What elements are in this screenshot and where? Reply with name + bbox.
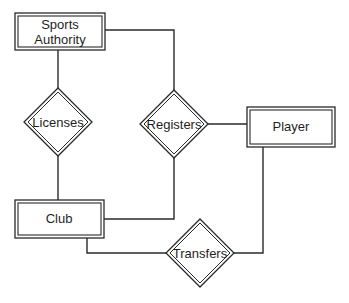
relationship-licenses[interactable]: Licenses	[24, 88, 92, 156]
entity-sports-authority-label-line2: Authority	[34, 32, 86, 47]
entity-sports-authority-label-line1: Sports	[41, 17, 79, 32]
relationship-registers-label: Registers	[147, 117, 202, 132]
entity-club-label: Club	[46, 211, 73, 226]
edge-club-registers	[104, 158, 174, 219]
entity-sports-authority[interactable]: Sports Authority	[15, 13, 105, 50]
entity-player[interactable]: Player	[247, 107, 335, 147]
er-diagram-canvas: Sports Authority Player Club Licenses Re…	[0, 0, 349, 303]
entity-club[interactable]: Club	[15, 200, 104, 238]
relationship-registers[interactable]: Registers	[140, 90, 208, 158]
edge-club-transfers	[87, 238, 167, 253]
relationship-transfers-label: Transfers	[173, 246, 228, 261]
relationship-transfers[interactable]: Transfers	[166, 219, 234, 287]
relationship-licenses-label: Licenses	[32, 115, 84, 130]
entity-player-label: Player	[273, 119, 311, 134]
edge-sports-authority-registers	[105, 30, 174, 90]
edge-transfers-player	[233, 147, 263, 253]
